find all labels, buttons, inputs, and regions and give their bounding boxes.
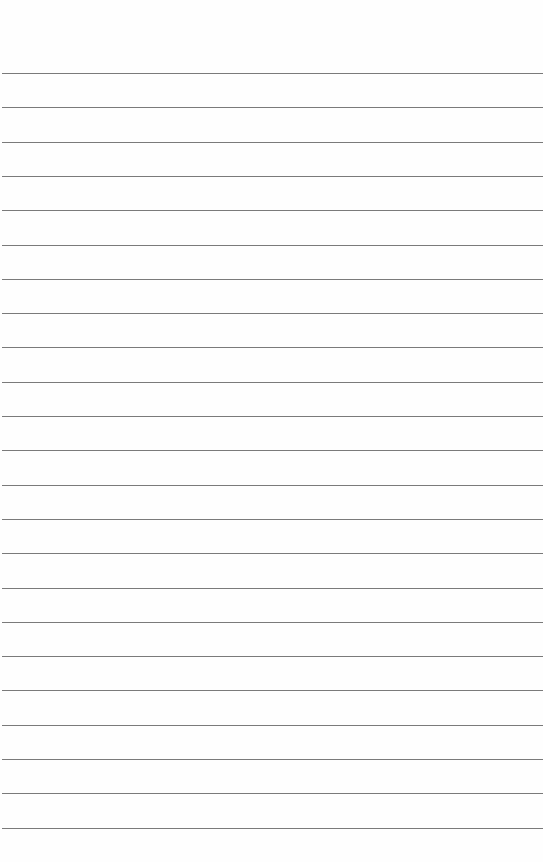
lined-paper [0,0,543,862]
ruled-line [2,107,543,108]
ruled-line [2,588,543,589]
ruled-line [2,416,543,417]
ruled-line [2,210,543,211]
ruled-line [2,622,543,623]
ruled-line [2,759,543,760]
ruled-line [2,347,543,348]
ruled-line [2,313,543,314]
ruled-line [2,450,543,451]
ruled-line [2,828,543,829]
ruled-line [2,656,543,657]
ruled-line [2,142,543,143]
ruled-line [2,690,543,691]
ruled-line [2,73,543,74]
ruled-line [2,553,543,554]
ruled-line [2,793,543,794]
ruled-line [2,382,543,383]
ruled-line [2,245,543,246]
ruled-line [2,519,543,520]
ruled-line [2,485,543,486]
ruled-line [2,725,543,726]
ruled-line [2,176,543,177]
ruled-line [2,279,543,280]
